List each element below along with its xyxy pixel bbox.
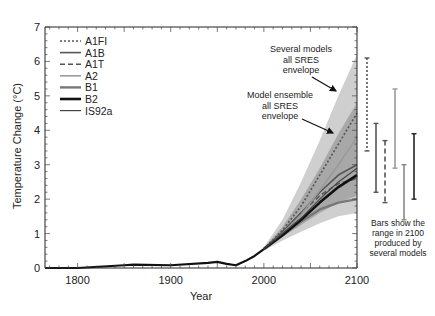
- annotation-text: envelope: [283, 65, 320, 75]
- annotation-text: range in 2100: [372, 228, 424, 238]
- annotation-text: several models: [369, 248, 426, 258]
- x-tick-label: 1900: [158, 274, 182, 286]
- annotation-text: Several models: [270, 44, 333, 54]
- legend-label-a2: A2: [85, 70, 98, 82]
- y-tick-label: 6: [34, 55, 40, 67]
- y-tick-label: 1: [34, 228, 40, 240]
- annotation-text: envelope: [262, 111, 299, 121]
- legend-label-b1: B1: [85, 81, 98, 93]
- annotation-text: Bars show the: [371, 218, 425, 228]
- y-tick-label: 0: [34, 262, 40, 274]
- y-tick-label: 3: [34, 159, 40, 171]
- temperature-change-chart: 012345671800190020002100 A1FIA1BA1TA2B1B…: [0, 0, 435, 316]
- range-bars-2100: [365, 58, 417, 220]
- annotation-text: all SRES: [262, 101, 298, 111]
- x-tick-label: 2000: [252, 274, 276, 286]
- y-tick-label: 2: [34, 193, 40, 205]
- annotation-text: produced by: [375, 238, 423, 248]
- envelope-bands: [264, 55, 357, 251]
- x-tick-label: 1800: [65, 274, 89, 286]
- legend: A1FIA1BA1TA2B1B2IS92a: [60, 35, 113, 117]
- legend-label-is92a: IS92a: [85, 105, 113, 117]
- x-axis-label: Year: [190, 290, 213, 302]
- legend-label-a1b: A1B: [85, 47, 105, 59]
- legend-label-a1t: A1T: [85, 58, 105, 70]
- legend-label-b2: B2: [85, 93, 98, 105]
- annotation-text: all SRES: [283, 55, 319, 65]
- legend-label-a1fi: A1FI: [85, 35, 107, 47]
- y-tick-label: 4: [34, 124, 40, 136]
- arrow-outer-envelope: [312, 77, 336, 91]
- y-tick-label: 5: [34, 90, 40, 102]
- annotation-text: Model ensemble: [247, 90, 313, 100]
- y-axis-label: Temperature Change (°C): [11, 83, 23, 209]
- y-tick-label: 7: [34, 21, 40, 33]
- x-tick-label: 2100: [345, 274, 369, 286]
